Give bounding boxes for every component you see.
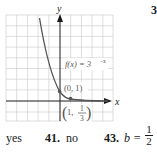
problem-number-41: 41. bbox=[45, 131, 60, 146]
point-label-1-third-x: 1, bbox=[67, 107, 73, 117]
answer-41: no bbox=[66, 131, 78, 146]
answer-39: yes bbox=[6, 131, 22, 146]
function-exponent: −x bbox=[100, 58, 106, 64]
answer-43-var: b = bbox=[124, 131, 141, 146]
x-axis-label: x bbox=[114, 96, 120, 107]
fraction-numerator: 1 bbox=[146, 124, 152, 135]
side-problem-number: 3 bbox=[151, 3, 157, 18]
function-label: f(x) = 3 bbox=[65, 59, 91, 69]
fraction-denominator: 2 bbox=[146, 136, 152, 147]
point-1-third bbox=[69, 97, 73, 101]
point-label-1-third-num: 1 bbox=[80, 104, 84, 113]
point-label-1-third-rparen: ) bbox=[86, 104, 91, 122]
exponential-graph: y x f(x) = 3 −x (0, 1) ( 1, 1 3 ) bbox=[0, 0, 125, 125]
answer-43-fraction: 1 2 bbox=[145, 124, 153, 147]
point-label-0-1: (0, 1) bbox=[64, 83, 83, 93]
point-label-1-third-den: 3 bbox=[80, 114, 84, 123]
y-axis-label: y bbox=[56, 3, 62, 14]
problem-number-43: 43. bbox=[104, 131, 119, 146]
point-0-1 bbox=[58, 90, 62, 94]
